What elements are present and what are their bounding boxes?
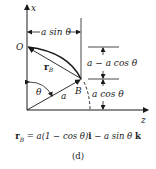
- figure-caption: (d): [0, 151, 156, 161]
- radius-label: a: [61, 91, 66, 101]
- formula-rhs-1: = a(1 − cos θ): [24, 131, 88, 141]
- origin-label: O: [16, 42, 24, 52]
- a-cos-theta-label: a cos θ: [92, 89, 124, 99]
- position-formula: rB = a(1 − cos θ)i − a sin θ k: [0, 131, 156, 143]
- x-axis-label: x: [31, 3, 36, 13]
- z-axis-label: z: [140, 115, 146, 125]
- kinematics-diagram: x z O a sin θ rB a θ B a − a cos θ a cos…: [0, 0, 156, 169]
- a-sin-theta-label: a sin θ: [41, 27, 71, 37]
- radius-a-vector: [27, 80, 80, 110]
- unit-vector-k: k: [135, 131, 141, 141]
- formula-rhs-2: − a sin θ: [92, 131, 135, 141]
- dashed-arc: [84, 82, 90, 110]
- point-b-label: B: [74, 86, 82, 96]
- rb-label: rB: [44, 62, 54, 73]
- theta-label: θ: [36, 87, 42, 97]
- a-minus-a-cos-theta-label: a − a cos θ: [87, 58, 138, 68]
- position-vector-rb: [29, 48, 80, 78]
